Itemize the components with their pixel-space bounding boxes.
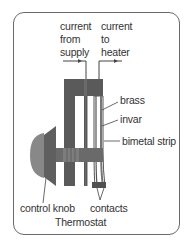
- label-bimetal-strip: bimetal strip: [122, 135, 176, 148]
- knob-leader: [43, 178, 46, 203]
- supply-arrow-icon: [78, 59, 82, 63]
- contacts: [92, 182, 106, 188]
- label-control-knob: control knob: [20, 202, 75, 215]
- contacts-leader-2: [100, 188, 104, 200]
- centre-rod: [84, 79, 87, 186]
- control-knob: [30, 133, 44, 178]
- diagram-title: Thermostat: [55, 216, 106, 229]
- label-current-from-supply: current from supply: [60, 20, 91, 59]
- contacts-leader-1: [97, 188, 100, 200]
- label-current-to-heater: current to heater: [101, 20, 132, 59]
- label-invar: invar: [120, 113, 142, 126]
- label-brass: brass: [120, 94, 145, 107]
- label-contacts: contacts: [90, 202, 128, 215]
- heater-wire: [99, 61, 122, 79]
- invar-leader: [102, 120, 118, 126]
- heater-arrow-icon: [114, 59, 118, 63]
- supply-wire: [63, 61, 86, 79]
- brass-leader: [102, 102, 118, 110]
